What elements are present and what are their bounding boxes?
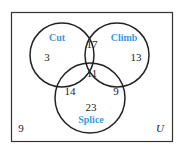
region-cut-climb: 17 [87, 38, 99, 50]
region-cut-only: 3 [44, 51, 50, 63]
climb-label: Climb [111, 32, 138, 43]
universe-label: U [156, 122, 165, 134]
region-climb-splice: 9 [113, 85, 119, 97]
region-climb-only: 13 [131, 51, 143, 63]
region-cut-splice: 14 [65, 85, 77, 97]
region-all-three: 11 [87, 67, 98, 79]
venn-diagram: Cut Climb Splice 3 13 17 11 14 9 23 9 U [0, 0, 184, 151]
splice-label: Splice [78, 114, 104, 125]
region-none: 9 [18, 122, 24, 134]
cut-label: Cut [49, 32, 66, 43]
region-splice-only: 23 [86, 101, 98, 113]
